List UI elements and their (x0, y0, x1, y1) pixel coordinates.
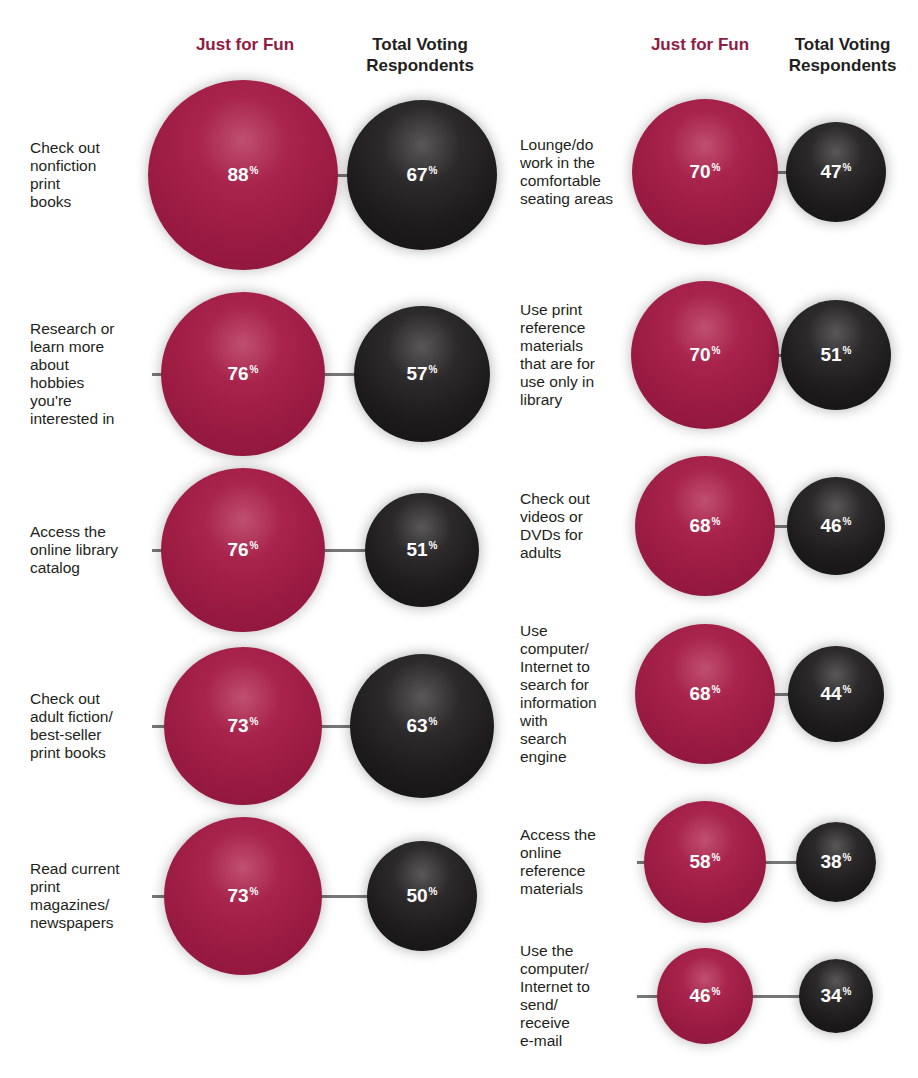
just-for-fun-bubble: 68% (635, 456, 775, 596)
value-label: 47% (820, 161, 851, 183)
percent-sign: % (712, 345, 721, 356)
value-number: 58 (689, 851, 710, 872)
total-voting-bubble: 50% (367, 841, 477, 951)
percent-sign: % (250, 540, 259, 551)
total-voting-bubble: 38% (796, 822, 876, 902)
value-label: 73% (227, 885, 258, 907)
value-label: 70% (689, 344, 720, 366)
percent-sign: % (712, 162, 721, 173)
just-for-fun-bubble: 73% (164, 647, 322, 805)
total-voting-bubble: 63% (350, 654, 494, 798)
value-label: 46% (820, 515, 851, 537)
value-label: 63% (406, 715, 437, 737)
just-for-fun-bubble: 70% (631, 281, 779, 429)
value-number: 88 (227, 164, 248, 185)
header-total-voting-right: Total Voting Respondents (780, 34, 905, 76)
value-label: 38% (820, 851, 851, 873)
percent-sign: % (250, 364, 259, 375)
value-number: 44 (820, 683, 841, 704)
total-voting-bubble: 34% (799, 959, 873, 1033)
value-number: 46 (689, 985, 710, 1006)
percent-sign: % (429, 886, 438, 897)
row-label: Read current print magazines/ newspapers (30, 860, 152, 932)
value-number: 51 (820, 344, 841, 365)
row-label: Check out adult fiction/ best-seller pri… (30, 690, 152, 762)
row-label: Access the online reference materials (520, 826, 637, 898)
value-label: 88% (227, 164, 258, 186)
just-for-fun-bubble: 58% (644, 801, 766, 923)
just-for-fun-bubble: 88% (148, 80, 338, 270)
value-number: 34 (820, 985, 841, 1006)
value-number: 73 (227, 885, 248, 906)
value-number: 51 (406, 539, 427, 560)
percent-sign: % (843, 852, 852, 863)
row-label: Use print reference materials that are f… (520, 301, 637, 409)
row-label: Use computer/ Internet to search for inf… (520, 622, 637, 766)
percent-sign: % (429, 716, 438, 727)
value-number: 76 (227, 363, 248, 384)
percent-sign: % (429, 165, 438, 176)
total-voting-bubble: 51% (365, 493, 479, 607)
just-for-fun-bubble: 73% (164, 817, 322, 975)
value-label: 76% (227, 539, 258, 561)
header-just-for-fun-right: Just for Fun (640, 34, 760, 55)
percent-sign: % (429, 364, 438, 375)
percent-sign: % (250, 165, 259, 176)
value-number: 70 (689, 161, 710, 182)
row-label: Access the online library catalog (30, 523, 152, 577)
value-label: 70% (689, 161, 720, 183)
value-number: 63 (406, 715, 427, 736)
value-label: 46% (689, 985, 720, 1007)
percent-sign: % (429, 540, 438, 551)
row-label: Check out nonfiction print books (30, 139, 152, 211)
value-number: 73 (227, 715, 248, 736)
value-label: 68% (689, 683, 720, 705)
total-voting-bubble: 47% (786, 122, 886, 222)
percent-sign: % (250, 886, 259, 897)
value-label: 67% (406, 164, 437, 186)
value-label: 73% (227, 715, 258, 737)
percent-sign: % (843, 986, 852, 997)
just-for-fun-bubble: 70% (632, 99, 778, 245)
value-number: 70 (689, 344, 710, 365)
value-number: 46 (820, 515, 841, 536)
percent-sign: % (712, 516, 721, 527)
percent-sign: % (250, 716, 259, 727)
total-voting-bubble: 67% (347, 100, 497, 250)
value-label: 44% (820, 683, 851, 705)
value-label: 51% (406, 539, 437, 561)
value-number: 67 (406, 164, 427, 185)
value-label: 50% (406, 885, 437, 907)
row-label: Use the computer/ Internet to send/ rece… (520, 942, 637, 1050)
value-number: 47 (820, 161, 841, 182)
value-label: 76% (227, 363, 258, 385)
total-voting-bubble: 44% (788, 646, 884, 742)
total-voting-bubble: 46% (787, 477, 885, 575)
value-number: 76 (227, 539, 248, 560)
just-for-fun-bubble: 76% (161, 468, 325, 632)
percent-sign: % (843, 162, 852, 173)
percent-sign: % (712, 852, 721, 863)
total-voting-bubble: 51% (781, 300, 891, 410)
percent-sign: % (843, 516, 852, 527)
value-number: 50 (406, 885, 427, 906)
value-label: 58% (689, 851, 720, 873)
percent-sign: % (843, 684, 852, 695)
value-label: 51% (820, 344, 851, 366)
percent-sign: % (712, 684, 721, 695)
just-for-fun-bubble: 76% (161, 292, 325, 456)
value-label: 34% (820, 985, 851, 1007)
row-label: Check out videos or DVDs for adults (520, 490, 637, 562)
value-number: 68 (689, 683, 710, 704)
header-total-voting-left: Total Voting Respondents (355, 34, 485, 76)
total-voting-bubble: 57% (354, 306, 490, 442)
row-label: Lounge/do work in the comfortable seatin… (520, 136, 637, 208)
value-number: 38 (820, 851, 841, 872)
percent-sign: % (712, 986, 721, 997)
percent-sign: % (843, 345, 852, 356)
value-number: 57 (406, 363, 427, 384)
just-for-fun-bubble: 68% (635, 624, 775, 764)
value-number: 68 (689, 515, 710, 536)
just-for-fun-bubble: 46% (657, 948, 753, 1044)
value-label: 68% (689, 515, 720, 537)
